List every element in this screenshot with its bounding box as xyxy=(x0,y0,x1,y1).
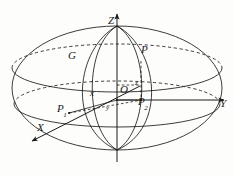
point-markers-group xyxy=(68,99,142,114)
point-p1-label: P1 xyxy=(57,103,67,117)
point-origin-dot xyxy=(116,99,118,101)
great-circle-label: G xyxy=(68,50,76,61)
component-x-label: x xyxy=(90,89,94,98)
component-z-label: z xyxy=(135,80,138,87)
diagram-canvas xyxy=(0,0,234,176)
point-p1-dot xyxy=(68,112,70,114)
point-p1-subscript: 1 xyxy=(63,111,67,119)
axis-x-label: X xyxy=(37,122,44,133)
origin-label: O xyxy=(120,84,128,95)
point-p2-label: P2 xyxy=(138,96,148,110)
axis-z-label: Z xyxy=(108,15,114,26)
point-p-label: P xyxy=(141,44,148,55)
component-y-label: y xyxy=(106,105,109,112)
point-p2-subscript: 2 xyxy=(144,104,148,112)
axis-y-label: Y xyxy=(220,98,226,109)
spherical-coordinate-diagram: Z Y X O P P1 P2 G x y z xyxy=(0,0,234,176)
